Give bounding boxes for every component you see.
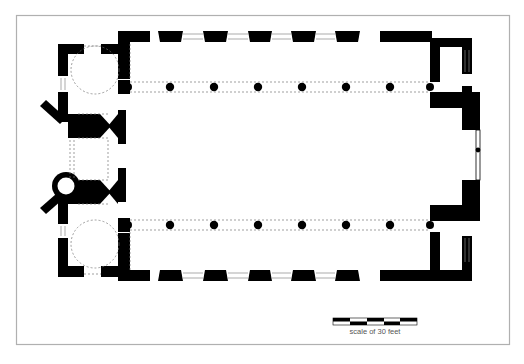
scale-bar-label: scale of 30 feet (333, 327, 417, 336)
columns (124, 83, 434, 229)
walls (40, 31, 432, 281)
east-annexes (430, 38, 480, 281)
stair-well (58, 178, 75, 195)
floor-plan (0, 0, 524, 364)
scale-bar (333, 318, 417, 325)
